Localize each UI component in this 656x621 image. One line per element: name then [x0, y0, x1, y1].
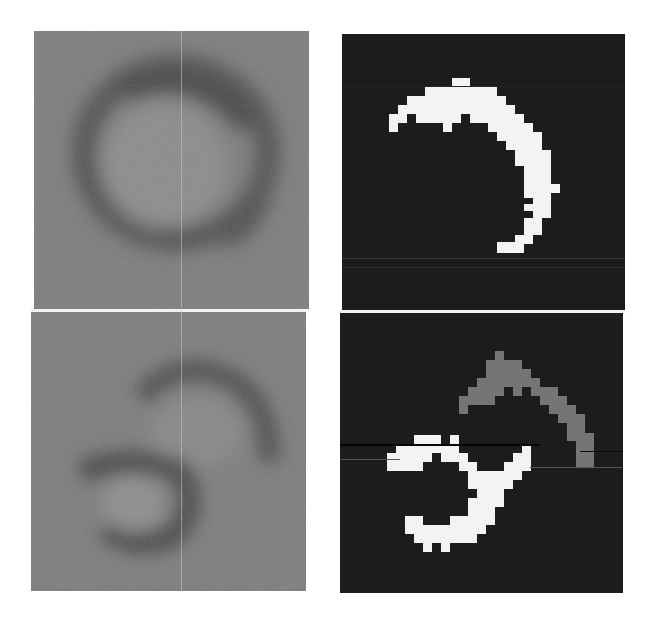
ring-image-double: [31, 312, 306, 591]
segmentation-mask-double: [340, 313, 623, 593]
mask-panel-top-right: [342, 34, 625, 311]
row-separator-right: [340, 310, 625, 313]
vertical-guide-line: [181, 31, 182, 591]
ring-image-single: [34, 31, 309, 310]
grayscale-panel-top-left: [34, 31, 309, 310]
row-separator-left: [31, 309, 309, 312]
figure-grid: [0, 0, 656, 621]
mask-panel-bottom-right: [340, 313, 623, 593]
segmentation-mask-single: [342, 34, 625, 311]
grayscale-panel-bottom-left: [31, 312, 306, 591]
